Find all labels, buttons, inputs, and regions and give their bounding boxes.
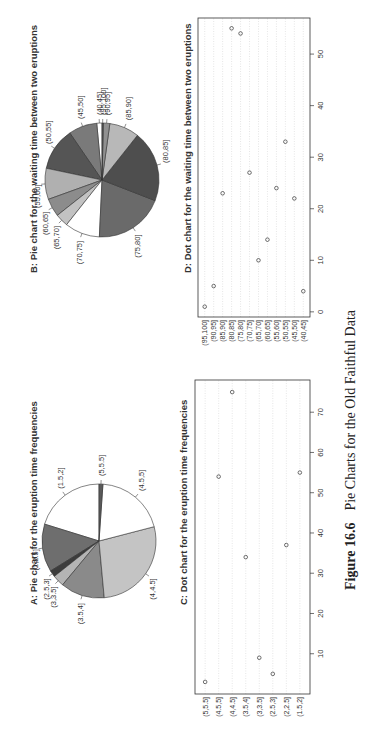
x-tick-label: 50 <box>316 50 325 58</box>
pie-slice-label: (75,80] <box>133 234 142 257</box>
pie-slice-label: (95,100] <box>99 87 108 115</box>
data-point <box>239 32 243 36</box>
x-tick-label: 40 <box>316 101 325 109</box>
x-tick-label: 30 <box>316 569 325 577</box>
charts-canvas: (1.5,2](2,2.5](2.5,3](3,3.5](3.5,4](4,4.… <box>0 0 370 753</box>
figure-page: A: Pie chart for the eruption time frequ… <box>0 0 370 753</box>
dot-row-label: (80,85] <box>228 320 236 342</box>
dot-row-label: (4.5,5] <box>215 697 223 717</box>
dot-row-label: (85,90] <box>219 320 227 342</box>
x-tick-label: 10 <box>316 650 325 658</box>
figure-caption: Figure 16.6Pie Charts for the Old Faithf… <box>343 310 359 590</box>
dot-row-label: (90,95] <box>210 320 218 342</box>
dot-row-label: (75,80] <box>237 320 245 342</box>
pie-slice-label: (3,3.5] <box>49 586 58 607</box>
data-point <box>221 191 225 195</box>
pie-slice-label: (2,2.5] <box>31 549 40 570</box>
pie-slice-label: (3.5,4] <box>76 603 85 624</box>
pie-slice-label: (50,55] <box>44 121 53 144</box>
dot-chart-d: (40,45](45,50](50,55](55,60](60,65](65,7… <box>198 18 325 346</box>
dot-row-label: (65,70] <box>255 320 263 342</box>
dot-row-label: (40,45] <box>300 320 308 342</box>
dot-row-label: (4,4.5] <box>229 697 237 717</box>
dot-row-label: (2.5,3] <box>269 697 277 717</box>
dot-row-label: (50,55] <box>282 320 290 342</box>
pie-slice-label: (4,4.5] <box>148 578 157 599</box>
x-tick-label: 30 <box>316 153 325 161</box>
x-tick-label: 50 <box>316 489 325 497</box>
x-tick-label: 60 <box>316 448 325 456</box>
pie-slice-label: (85,90] <box>124 97 133 120</box>
dot-row-label: (1.5,2] <box>296 697 304 717</box>
pie-chart-a: (1.5,2](2,2.5](2.5,3](3,3.5](3.5,4](4,4.… <box>31 455 158 625</box>
x-tick-label: 20 <box>316 609 325 617</box>
pie-slice-label: (65,70] <box>52 226 61 249</box>
pie-chart-b: (40,45](45,50](50,55](55,60](60,65](65,7… <box>33 87 170 264</box>
pie-slice-label: (70,75] <box>75 241 84 264</box>
pie-slice-label: (45,50] <box>76 96 85 119</box>
dot-row-label: (95,100] <box>201 320 209 346</box>
data-point <box>217 475 221 479</box>
dot-row-label: (70,75] <box>246 320 254 342</box>
data-point <box>230 27 234 31</box>
dot-row-label: (55,60] <box>273 320 281 342</box>
dot-row-label: (45,50] <box>291 320 299 342</box>
data-point <box>257 656 261 660</box>
dot-row-label: (2,2.5] <box>283 697 291 717</box>
pie-slice-label: (4.5,5] <box>137 470 146 491</box>
x-tick-label: 70 <box>316 408 325 416</box>
dot-row-label: (3.5,4] <box>242 697 250 717</box>
x-tick-label: 40 <box>316 529 325 537</box>
pie-slice-label: (60,65] <box>41 212 50 235</box>
figure-caption-text: Pie Charts for the Old Faithful Data <box>343 310 358 511</box>
data-point <box>293 197 297 201</box>
dot-row-label: (60,65] <box>264 320 272 342</box>
pie-slice-label: (5,5.5] <box>97 455 106 476</box>
x-tick-label: 10 <box>316 256 325 264</box>
pie-slice-label: (55,60] <box>33 185 42 208</box>
figure-label: Figure 16.6 <box>343 523 358 590</box>
data-point <box>266 238 270 242</box>
dot-chart-c: (1.5,2](2,2.5](2.5,3](3,3.5](3.5,4](4,4.… <box>195 380 325 717</box>
dot-row-label: (5,5.5] <box>202 697 210 717</box>
pie-slice-label: (1.5,2] <box>56 467 65 488</box>
x-tick-label: 20 <box>316 205 325 213</box>
x-tick-label: 0 <box>316 310 325 314</box>
pie-slice-label: (80,85] <box>161 140 170 163</box>
dot-row-label: (3,3.5] <box>256 697 264 717</box>
